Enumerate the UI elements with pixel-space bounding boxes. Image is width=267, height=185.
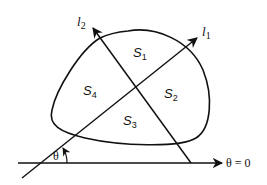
region-label-s2: S2 xyxy=(164,86,178,103)
region-label-s4: S4 xyxy=(83,83,97,100)
angle-arc-icon xyxy=(63,148,67,163)
region-label-s1: S1 xyxy=(133,45,147,62)
label-l2: l2 xyxy=(77,14,86,31)
partition-diagram: l2 l1 S1 S2 S3 S4 θ θ = 0 xyxy=(0,0,267,185)
label-l1: l1 xyxy=(202,24,211,41)
line-l1 xyxy=(22,38,197,178)
region-label-s3: S3 xyxy=(123,113,137,130)
axis-label-theta-zero: θ = 0 xyxy=(226,156,251,170)
angle-label-theta: θ xyxy=(53,149,59,163)
